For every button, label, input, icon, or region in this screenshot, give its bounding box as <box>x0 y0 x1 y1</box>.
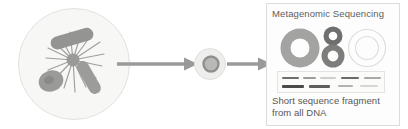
microbial-community-sample <box>18 8 130 120</box>
gel-band-r2-c2 <box>309 85 330 88</box>
caption-line-2: from all DNA <box>272 107 402 119</box>
gel-band-r2-c4 <box>360 85 378 87</box>
dna-fragment-gel <box>277 71 385 93</box>
gel-band-r1-c3 <box>320 77 336 79</box>
genome-ring-small-bot <box>322 45 345 68</box>
genome-rings-group <box>272 24 398 70</box>
caption-line-1: Short sequence fragment <box>272 95 402 107</box>
genome-ring-outline <box>349 30 386 67</box>
metagenomic-sequencing-diagram: Metagenomic Sequencing <box>0 0 408 129</box>
gel-band-r2-c1 <box>282 85 304 88</box>
panel-caption: Short sequence fragment from all DNA <box>272 95 402 118</box>
gel-band-r1-c1 <box>282 77 299 79</box>
genome-ring-small-top <box>324 27 343 46</box>
gel-band-r1-c2 <box>303 77 316 79</box>
single-microbe-cell <box>193 47 227 81</box>
gel-band-r1-c4 <box>341 77 359 79</box>
panel-title: Metagenomic Sequencing <box>272 8 400 19</box>
gel-band-r1-c5 <box>364 77 381 79</box>
gel-band-r2-c3 <box>338 85 353 87</box>
genome-ring-large <box>281 29 320 68</box>
